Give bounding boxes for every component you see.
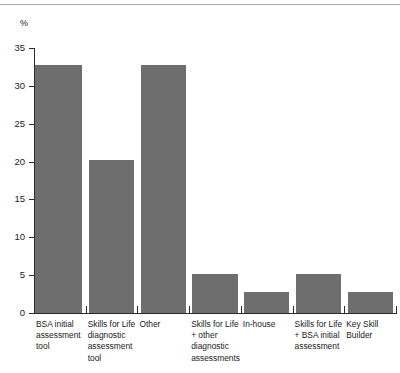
y-axis-tick-mark <box>29 124 34 125</box>
y-axis-tick-label: 0 <box>0 308 25 318</box>
category-label-line: In-house <box>243 319 299 330</box>
y-axis-tick-mark <box>29 313 34 314</box>
y-axis-tick-mark <box>29 275 34 276</box>
y-axis-tick-mark <box>29 162 34 163</box>
x-axis-category-label: Other <box>139 319 195 330</box>
category-label-line: BSA initial <box>36 319 92 330</box>
bar-chart-figure: % 05101520253035 BSA initialassessmentto… <box>0 0 400 373</box>
bar <box>348 292 393 313</box>
y-axis-tick-mark <box>29 86 34 87</box>
x-axis-tick-mark <box>241 306 242 314</box>
category-label-line: + BSA initial <box>295 330 351 341</box>
category-label-line: assessment <box>36 330 92 341</box>
x-axis-tick-mark <box>344 306 345 314</box>
category-label-line: assessment <box>88 341 144 352</box>
y-axis-tick-label: 35 <box>0 43 25 53</box>
x-axis-category-label: Skills for Life+ otherdiagnosticassessme… <box>191 319 247 364</box>
category-label-line: tool <box>88 353 144 364</box>
category-label-line: diagnostic <box>88 330 144 341</box>
y-axis-unit-label: % <box>20 18 28 29</box>
y-axis-tick-label: 20 <box>0 157 25 167</box>
category-label-line: assessment <box>295 341 351 352</box>
bar <box>35 65 82 313</box>
top-divider-rule <box>0 4 400 5</box>
x-axis-tick-mark <box>137 306 138 314</box>
x-axis-tick-mark <box>189 306 190 314</box>
x-axis-line <box>34 313 396 314</box>
x-axis-category-label: In-house <box>243 319 299 330</box>
bar <box>296 274 341 313</box>
y-axis-tick-label: 30 <box>0 81 25 91</box>
x-axis-tick-mark <box>86 306 87 314</box>
category-label-line: Skills for Life <box>88 319 144 330</box>
y-axis-tick-label: 5 <box>0 270 25 280</box>
y-axis-tick-label: 15 <box>0 194 25 204</box>
bar <box>141 65 186 313</box>
category-label-line: + other <box>191 330 247 341</box>
category-label-line: diagnostic <box>191 341 247 352</box>
category-label-line: tool <box>36 341 92 352</box>
x-axis-category-label: Skills for Lifediagnosticassessmenttool <box>88 319 144 364</box>
y-axis-tick-mark <box>29 199 34 200</box>
y-axis-tick-mark <box>29 48 34 49</box>
x-axis-category-label: Key SkillBuilder <box>346 319 400 341</box>
x-axis-tick-mark <box>293 306 294 314</box>
category-label-line: Other <box>139 319 195 330</box>
y-axis-tick-label: 10 <box>0 232 25 242</box>
bar <box>89 160 134 313</box>
x-axis-category-label: Skills for Life+ BSA initialassessment <box>295 319 351 353</box>
category-label-line: Key Skill <box>346 319 400 330</box>
x-axis-category-label: BSA initialassessmenttool <box>36 319 92 353</box>
x-axis-tick-mark <box>396 306 397 314</box>
y-axis-tick-mark <box>29 237 34 238</box>
category-label-line: assessments <box>191 353 247 364</box>
category-label-line: Skills for Life <box>191 319 247 330</box>
bar <box>244 292 289 313</box>
category-label-line: Builder <box>346 330 400 341</box>
category-label-line: Skills for Life <box>295 319 351 330</box>
bar <box>192 274 237 313</box>
y-axis-tick-label: 25 <box>0 119 25 129</box>
